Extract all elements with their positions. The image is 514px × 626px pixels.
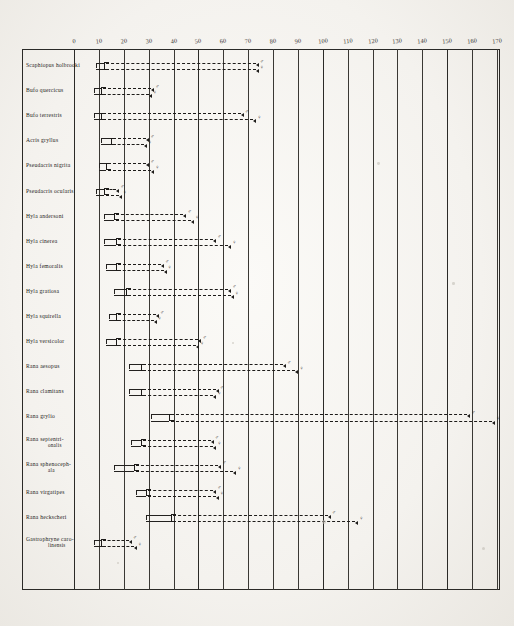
table-row: Scaphiopus holbrooki♂♀ <box>22 58 500 83</box>
axis-tick-label: 0 <box>72 37 76 44</box>
range-dashed-extent <box>143 364 283 365</box>
axis-tick-label: 150 <box>442 36 453 44</box>
range-dashed-extent <box>118 314 156 315</box>
axis-tick-label: 160 <box>467 36 478 44</box>
male-symbol: ♂ <box>187 209 191 215</box>
range-max-arrow <box>129 540 132 544</box>
range-min-cap <box>101 138 102 143</box>
table-row: Pseudacris ocularis♂♀ <box>22 184 500 209</box>
table-row: Gastrophryne caro-linensis♂♀ <box>22 535 500 560</box>
male-symbol: ♂ <box>245 109 249 115</box>
species-label: Bufo quercicus <box>26 87 64 93</box>
range-max-arrow <box>119 195 122 199</box>
range-dashed-extent <box>128 289 228 290</box>
range-dashed-extent <box>103 94 148 95</box>
range-min-cap <box>94 113 95 118</box>
range-min-cap <box>114 289 115 294</box>
range-max-arrow <box>183 214 186 218</box>
table-row: Hyla andersoni♂♀ <box>22 209 500 234</box>
range-max-arrow <box>196 345 199 349</box>
species-label: Rana sphenoceph-ala <box>26 461 71 473</box>
axis-tick-label: 110 <box>342 36 352 44</box>
range-min-cap <box>129 389 130 394</box>
table-row: Hyla squirella♂♀ <box>22 309 500 334</box>
range-max-arrow <box>492 421 495 425</box>
range-max-arrow <box>467 414 470 418</box>
range-max-arrow <box>213 446 216 450</box>
range-max-arrow <box>231 295 234 299</box>
species-label: Rana virgatipes <box>26 489 65 495</box>
female-symbol: ♀ <box>138 542 142 548</box>
range-dashed-extent <box>103 88 151 89</box>
range-dashed-extent <box>103 119 253 120</box>
range-dashed-extent <box>118 320 153 321</box>
range-min-cap <box>104 239 105 244</box>
range-dashed-extent <box>143 370 295 371</box>
species-label: Hyla squirella <box>26 313 61 319</box>
range-dashed-extent <box>173 521 355 522</box>
scan-artifact <box>377 162 380 165</box>
range-whisker <box>131 440 141 441</box>
male-symbol: ♂ <box>150 159 154 165</box>
table-row: Pseudacris nigrita♂♀ <box>22 158 500 183</box>
species-label: Scaphiopus holbrooki <box>26 62 80 68</box>
species-label: Rana grylio <box>26 413 55 419</box>
range-min-cap <box>96 189 97 194</box>
species-label: Acris gryllus <box>26 137 58 143</box>
axis-tick-label: 100 <box>317 36 328 44</box>
range-max-arrow <box>228 245 231 249</box>
range-dashed-extent <box>106 195 119 196</box>
range-dashed-extent <box>116 220 191 221</box>
range-whisker <box>94 540 101 541</box>
range-min-cap <box>151 414 152 419</box>
range-whisker <box>129 395 141 396</box>
range-max-arrow <box>116 189 119 193</box>
axis-tick-label: 130 <box>392 36 403 44</box>
female-symbol: ♀ <box>217 391 221 397</box>
male-symbol: ♂ <box>332 510 336 516</box>
female-symbol: ♀ <box>235 291 239 297</box>
range-whisker <box>104 214 114 215</box>
table-row: Rana clamitans♂♀ <box>22 384 500 409</box>
female-symbol: ♀ <box>260 65 264 71</box>
range-whisker <box>106 345 116 346</box>
range-dashed-extent <box>118 339 198 340</box>
range-whisker <box>106 339 116 340</box>
range-whisker <box>114 295 126 296</box>
range-dashed-extent <box>171 421 492 422</box>
male-symbol: ♂ <box>222 460 226 466</box>
range-whisker <box>99 163 106 164</box>
range-dashed-extent <box>143 389 216 390</box>
range-max-arrow <box>256 63 259 67</box>
range-dashed-extent <box>118 239 213 240</box>
species-label: Hyla andersoni <box>26 213 64 219</box>
range-dashed-extent <box>171 414 468 415</box>
male-symbol: ♂ <box>287 360 291 366</box>
female-symbol: ♀ <box>155 165 159 171</box>
range-dashed-extent <box>148 490 213 491</box>
axis-tick-label: 60 <box>220 37 227 45</box>
range-dashed-extent <box>103 546 133 547</box>
range-dashed-extent <box>108 163 146 164</box>
range-dashed-extent <box>113 138 146 139</box>
range-whisker <box>106 270 116 271</box>
range-dashed-extent <box>103 540 128 541</box>
female-symbol: ♀ <box>148 140 152 146</box>
range-max-arrow <box>164 270 167 274</box>
range-whisker <box>146 515 171 516</box>
species-label: Rana aesopus <box>26 363 60 369</box>
range-whisker <box>94 94 101 95</box>
species-label: Hyla versicolor <box>26 338 64 344</box>
table-row: Rana sphenoceph-ala♂♀ <box>22 460 500 485</box>
range-whisker <box>96 195 103 196</box>
range-dashed-extent <box>143 395 213 396</box>
range-whisker <box>101 144 111 145</box>
range-whisker <box>114 465 134 466</box>
species-label: Rana clamitans <box>26 388 64 394</box>
species-label: Pseudacris ocularis <box>26 188 74 194</box>
table-row: Rana aesopus♂♀ <box>22 359 500 384</box>
species-label: Hyla gratiosa <box>26 288 59 294</box>
range-dashed-extent <box>118 345 196 346</box>
axis-tick-label: 50 <box>195 37 202 45</box>
range-whisker <box>101 138 111 139</box>
